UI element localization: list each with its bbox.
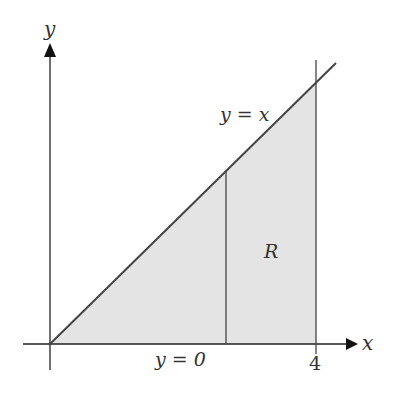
y-axis-arrow-icon [44, 43, 56, 57]
region-label: R [263, 240, 278, 262]
curve-label-lower: y = 0 [154, 348, 206, 370]
x-axis-label: x [362, 331, 373, 355]
diagram-canvas: y x y = x y = 0 R 4 [0, 0, 395, 399]
y-axis-label: y [43, 17, 56, 41]
x-axis-arrow-icon [346, 338, 358, 350]
x-tick-label: 4 [309, 352, 321, 374]
region-diagram: y x y = x y = 0 R 4 [0, 0, 395, 399]
curve-label-upper: y = x [219, 103, 270, 125]
